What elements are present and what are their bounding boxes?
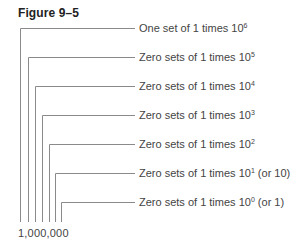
- label-text: Zero sets of 1 times 10: [139, 80, 251, 92]
- label-exponent: 5: [251, 51, 255, 58]
- label-exponent: 6: [244, 22, 248, 29]
- label-text: Zero sets of 1 times 10: [139, 196, 251, 208]
- label-exponent: 3: [251, 109, 255, 116]
- place-value-label: Zero sets of 1 times 105: [139, 51, 255, 63]
- label-text: One set of 1 times 10: [139, 22, 244, 34]
- place-bracket-line: [29, 58, 136, 223]
- place-bracket-line: [62, 203, 136, 223]
- label-exponent: 4: [251, 80, 255, 87]
- label-text: Zero sets of 1 times 10: [139, 167, 251, 179]
- place-bracket-line: [36, 87, 136, 223]
- place-value-label: Zero sets of 1 times 103: [139, 109, 255, 121]
- label-text: Zero sets of 1 times 10: [139, 109, 251, 121]
- place-bracket-line: [50, 145, 136, 223]
- place-value-label: Zero sets of 1 times 100 (or 1): [139, 196, 284, 208]
- place-bracket-line: [56, 174, 136, 223]
- place-value-label: Zero sets of 1 times 104: [139, 80, 255, 92]
- label-suffix: (or 10): [255, 167, 290, 179]
- place-value-label: Zero sets of 1 times 101 (or 10): [139, 167, 290, 179]
- place-bracket-line: [43, 116, 136, 223]
- label-suffix: (or 1): [255, 196, 284, 208]
- place-value-lines: [0, 0, 296, 248]
- label-exponent: 2: [251, 138, 255, 145]
- label-text: Zero sets of 1 times 10: [139, 138, 251, 150]
- label-text: Zero sets of 1 times 10: [139, 51, 251, 63]
- place-value-label: Zero sets of 1 times 102: [139, 138, 255, 150]
- number-value: 1,000,000: [18, 227, 69, 239]
- place-value-label: One set of 1 times 106: [139, 22, 247, 34]
